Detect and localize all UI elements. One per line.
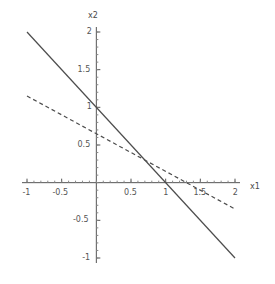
y-axis-title: x2 xyxy=(88,12,98,20)
x-tick-label: -0.5 xyxy=(52,189,68,197)
y-tick-label: 2 xyxy=(87,28,92,36)
plot-svg xyxy=(0,0,275,284)
x-axis-title: x1 xyxy=(250,183,260,191)
y-tick-label: -1 xyxy=(82,254,90,262)
y-tick-label: 1.5 xyxy=(78,66,91,74)
y-tick-label: 0.5 xyxy=(78,141,91,149)
x-tick-label: 2 xyxy=(233,189,238,197)
x-tick-label: 1.5 xyxy=(193,189,206,197)
x-tick-label: 1 xyxy=(163,189,168,197)
x-tick-label: 0.5 xyxy=(124,189,137,197)
y-tick-label: 1 xyxy=(87,103,92,111)
x-tick-label: -1 xyxy=(22,189,30,197)
series-solid-line xyxy=(27,32,235,258)
y-tick-label: -0.5 xyxy=(73,216,89,224)
plot-canvas: -1-0.50.511.52-1-0.50.511.52 x1 x2 xyxy=(0,0,275,284)
data-series-group xyxy=(27,32,235,258)
